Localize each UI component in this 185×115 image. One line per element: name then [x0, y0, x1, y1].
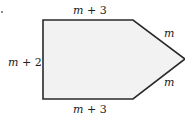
label-bottom: m + 3 [73, 103, 107, 115]
pentagon-diagram: m + 3 m + 2 m + 3 m m [0, 0, 185, 115]
label-lower-right: m [164, 76, 174, 89]
label-left: m + 2 [8, 56, 42, 69]
label-top: m + 3 [73, 4, 107, 17]
label-upper-right: m [164, 27, 174, 40]
bullet-dot [1, 11, 3, 13]
